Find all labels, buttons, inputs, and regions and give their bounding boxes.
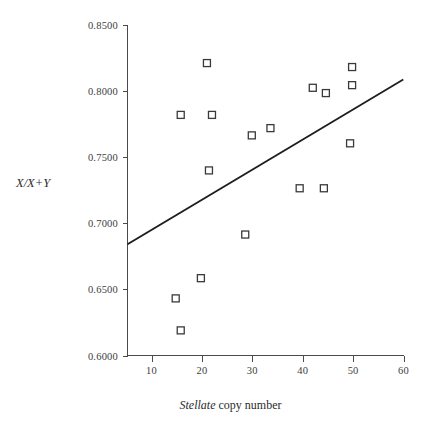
data-point-marker xyxy=(349,82,356,89)
data-point-marker xyxy=(242,231,249,238)
x-tick-label: 50 xyxy=(348,365,359,376)
data-point-marker xyxy=(203,60,210,67)
data-point-marker xyxy=(172,295,179,302)
y-axis-title: X/X+Y xyxy=(16,176,50,191)
y-tick-label: 0.7500 xyxy=(70,152,118,163)
y-tick-label: 0.8500 xyxy=(70,20,118,31)
y-tick-label: 0.8000 xyxy=(70,86,118,97)
data-point-marker xyxy=(309,84,316,91)
x-axis-title-roman: copy number xyxy=(219,398,282,412)
data-point-markers xyxy=(172,60,355,334)
x-axis-title: Stellate copy number xyxy=(0,398,421,413)
y-tick-marks xyxy=(123,26,128,357)
data-point-marker xyxy=(208,111,215,118)
data-point-marker xyxy=(296,185,303,192)
data-point-marker xyxy=(177,327,184,334)
scatter-plot-figure: 0.60000.65000.70000.75000.80000.8500 102… xyxy=(0,0,421,444)
x-tick-marks xyxy=(153,356,405,362)
regression-line xyxy=(128,80,402,244)
x-tick-label: 20 xyxy=(196,365,207,376)
x-axis-title-italic: Stellate xyxy=(180,398,216,412)
data-point-marker xyxy=(267,125,274,132)
plot-canvas xyxy=(0,0,421,444)
y-tick-label: 0.6500 xyxy=(70,284,118,295)
y-tick-label: 0.7000 xyxy=(70,218,118,229)
data-point-marker xyxy=(205,167,212,174)
data-point-marker xyxy=(177,111,184,118)
axes-group xyxy=(128,25,405,356)
x-tick-label: 30 xyxy=(247,365,258,376)
x-tick-label: 10 xyxy=(146,365,157,376)
y-tick-label: 0.6000 xyxy=(70,350,118,361)
data-point-marker xyxy=(347,140,354,147)
x-tick-label: 40 xyxy=(297,365,308,376)
data-point-marker xyxy=(349,64,356,71)
data-point-marker xyxy=(248,132,255,139)
data-point-marker xyxy=(320,185,327,192)
data-point-marker xyxy=(322,90,329,97)
data-point-marker xyxy=(197,275,204,282)
regression-trendline xyxy=(128,80,402,244)
x-tick-label: 60 xyxy=(398,365,409,376)
